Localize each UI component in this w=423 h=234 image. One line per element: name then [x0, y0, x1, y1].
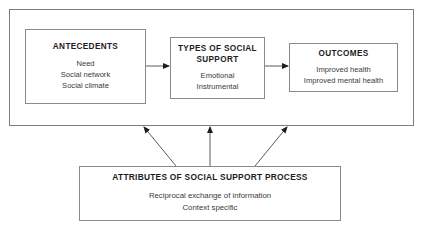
- box-antecedents-line-3: Social climate: [62, 80, 109, 91]
- box-types-line-1: Emotional: [201, 70, 235, 81]
- box-attributes-title: ATTRIBUTES OF SOCIAL SUPPORT PROCESS: [109, 172, 310, 183]
- arrow-attributes-to-frame-left-icon: [144, 127, 176, 166]
- box-types-of-social-support-title: TYPES OF SOCIAL SUPPORT: [175, 44, 260, 65]
- box-outcomes: OUTCOMES Improved health Improved mental…: [289, 43, 398, 92]
- box-attributes-line-2: Context specific: [182, 202, 237, 215]
- social-support-process-diagram: ANTECEDENTS Need Social network Social c…: [0, 0, 423, 234]
- box-antecedents: ANTECEDENTS Need Social network Social c…: [25, 29, 146, 104]
- box-outcomes-line-2: Improved mental health: [304, 75, 383, 86]
- box-types-title-line-2: SUPPORT: [178, 55, 257, 66]
- box-antecedents-title: ANTECEDENTS: [50, 42, 121, 53]
- box-types-of-social-support: TYPES OF SOCIAL SUPPORT Emotional Instru…: [170, 37, 265, 99]
- box-outcomes-line-1: Improved health: [316, 64, 370, 75]
- box-antecedents-line-2: Social network: [61, 69, 110, 80]
- box-types-title-line-1: TYPES OF SOCIAL: [178, 44, 257, 55]
- arrow-attributes-to-frame-right-icon: [255, 127, 287, 166]
- box-antecedents-line-1: Need: [76, 58, 94, 69]
- box-attributes-of-social-support-process: ATTRIBUTES OF SOCIAL SUPPORT PROCESS Rec…: [79, 166, 341, 221]
- box-attributes-line-1: Reciprocal exchange of information: [149, 190, 271, 203]
- box-outcomes-title: OUTCOMES: [315, 49, 371, 60]
- box-types-line-2: Instrumental: [197, 81, 239, 92]
